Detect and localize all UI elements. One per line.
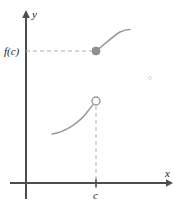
stray-speck-icon <box>148 76 151 79</box>
label-y-axis: y <box>31 8 37 20</box>
y-axis-arrow-icon <box>22 10 30 18</box>
x-axis-arrow-icon <box>166 179 173 187</box>
filled-point-fc <box>92 47 100 55</box>
graph-canvas: f(c) c y x <box>0 0 182 207</box>
label-f-of-c: f(c) <box>4 45 20 58</box>
label-c-on-x-axis: c <box>93 189 98 201</box>
x-axis-group <box>10 179 173 187</box>
right-branch-curve <box>96 30 130 52</box>
figure-container: f(c) c y x <box>0 0 182 207</box>
y-axis-group <box>22 10 30 199</box>
label-x-axis: x <box>164 167 170 179</box>
left-branch-curve <box>52 101 96 134</box>
open-point-limit <box>92 97 100 105</box>
